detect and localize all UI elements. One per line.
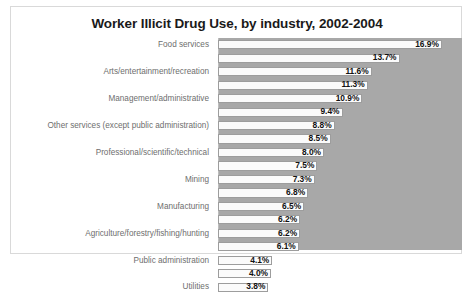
value-label: 9.4% [320,105,342,118]
bar-fill [218,40,442,49]
category-label: Management/administrative [108,92,209,105]
value-label: 10.9% [336,92,363,105]
value-label: 7.3% [293,173,315,186]
bar: 7.3% [218,173,315,186]
bar-row: Agriculture/forestry/fishing/hunting6.2% [11,227,463,240]
bar: 4.0% [218,267,271,280]
bar: 9.4% [218,105,343,118]
bar-row: Management/administrative10.9% [11,92,463,105]
bar-row: 6.2% [11,213,463,226]
bar: 10.9% [218,92,362,105]
bar: 6.2% [218,227,300,240]
category-label: Food services [158,38,209,51]
bar: 7.5% [218,159,317,172]
bar-row: Utilities3.8% [11,280,463,293]
value-label: 4.1% [250,254,272,267]
bar-row: Food services16.9% [11,38,463,51]
bar: 6.1% [218,240,299,253]
bar: 4.1% [218,254,272,267]
category-label: Professional/scientific/technical [96,146,209,159]
bar: 8.0% [218,146,324,159]
category-label: Utilities [183,280,209,293]
category-label: Agriculture/forestry/fishing/hunting [85,227,209,240]
bar-row: Public administration4.1% [11,254,463,267]
bar: 3.8% [218,280,268,293]
category-label: Mining [185,173,209,186]
bar-row: 4.0% [11,267,463,280]
value-label: 11.6% [345,65,371,78]
category-label: Arts/entertainment/recreation [103,65,209,78]
value-label: 13.7% [373,51,400,64]
bar-row: 9.4% [11,105,463,118]
value-label: 8.0% [302,146,324,159]
category-label: Public administration [133,254,209,267]
category-label: Other services (except public administra… [47,119,209,132]
bar: 8.5% [218,132,331,145]
chart-title: Worker Illicit Drug Use, by industry, 20… [11,16,463,31]
value-label: 3.8% [246,280,268,293]
bar-row: 8.5% [11,132,463,145]
bar: 6.5% [218,200,304,213]
bar-row: Other services (except public administra… [11,119,463,132]
bar: 11.6% [218,65,372,78]
bar-row: Arts/entertainment/recreation11.6% [11,65,463,78]
value-label: 8.5% [309,132,331,145]
bar-row: 11.3% [11,78,463,91]
chart-frame: Worker Illicit Drug Use, by industry, 20… [10,6,462,254]
bar-row: 7.5% [11,159,463,172]
bar-row: 13.7% [11,51,463,64]
value-label: 6.5% [282,200,304,213]
value-label: 6.2% [278,213,300,226]
bar-row: Professional/scientific/technical8.0% [11,146,463,159]
value-label: 6.2% [278,227,300,240]
value-label: 7.5% [295,159,317,172]
bar: 13.7% [218,51,400,64]
bar: 8.8% [218,119,335,132]
value-label: 8.8% [313,119,335,132]
bar: 11.3% [218,78,368,91]
bar-row: Manufacturing6.5% [11,200,463,213]
value-label: 16.9% [415,38,442,51]
category-label: Manufacturing [157,200,209,213]
value-label: 6.1% [277,240,299,253]
bar-rows: Food services16.9%13.7%Arts/entertainmen… [11,38,463,250]
bar-row: Mining7.3% [11,173,463,186]
value-label: 6.8% [286,186,308,199]
bar-row: 6.1% [11,240,463,253]
bar: 6.8% [218,186,308,199]
value-label: 4.0% [249,267,271,280]
value-label: 11.3% [341,78,367,91]
bar-row: 6.8% [11,186,463,199]
bar: 6.2% [218,213,300,226]
bar: 16.9% [218,38,442,51]
